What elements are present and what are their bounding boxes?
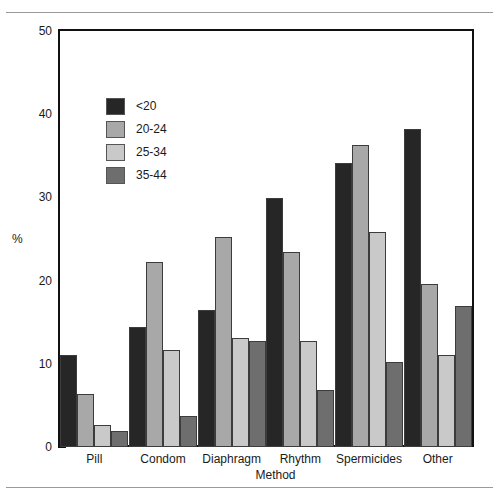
y-axis-title: % — [12, 232, 23, 246]
y-axis-tick-label: 50 — [4, 25, 52, 37]
bar — [77, 394, 94, 447]
bar — [283, 252, 300, 447]
bar-chart-figure: % 01020304050 PillCondomDiaphragmRhythmS… — [0, 0, 499, 499]
bar — [300, 341, 317, 447]
legend-item: 25-34 — [106, 142, 226, 165]
legend-item: <20 — [106, 96, 226, 119]
legend-swatch-icon — [106, 167, 125, 184]
legend-swatch-icon — [106, 98, 125, 115]
bar — [198, 310, 215, 447]
bar — [266, 198, 283, 447]
page-rule-top — [6, 12, 493, 13]
bar — [455, 306, 472, 447]
legend-item-label: 20-24 — [136, 122, 167, 136]
y-axis-tick-label: 20 — [4, 275, 52, 287]
y-axis-tick-label: 10 — [4, 358, 52, 370]
bar — [60, 355, 77, 447]
bar — [369, 232, 386, 447]
page-rule-bottom — [6, 487, 493, 488]
plot-area — [60, 31, 472, 447]
legend-swatch-icon — [106, 121, 125, 138]
bar — [352, 145, 369, 447]
legend-item: 35-44 — [106, 165, 226, 188]
x-axis-title: Method — [26, 468, 499, 482]
bar — [335, 163, 352, 447]
legend-item-label: <20 — [136, 99, 156, 113]
legend-item-label: 25-34 — [136, 145, 167, 159]
legend-swatch-icon — [106, 144, 125, 161]
bar — [438, 355, 455, 447]
bar — [146, 262, 163, 447]
bar — [232, 338, 249, 447]
y-axis-tick-label: 40 — [4, 108, 52, 120]
bar — [249, 341, 266, 447]
x-axis-tick-label: Other — [388, 452, 488, 466]
bar — [180, 416, 197, 447]
bar — [215, 237, 232, 447]
bar — [94, 425, 111, 447]
bar — [111, 431, 128, 447]
legend-item-label: 35-44 — [136, 168, 167, 182]
legend-item: 20-24 — [106, 119, 226, 142]
chart-legend: <2020-2425-3435-44 — [106, 96, 226, 188]
bar — [129, 327, 146, 447]
bar — [386, 362, 403, 447]
y-axis-tick-label: 30 — [4, 191, 52, 203]
bar — [163, 350, 180, 447]
bar — [317, 390, 334, 447]
bar — [421, 284, 438, 447]
bar — [404, 129, 421, 447]
